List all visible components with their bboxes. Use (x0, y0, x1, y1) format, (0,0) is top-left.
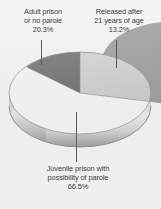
label-released-after-21-percent: 13.2% (82, 25, 156, 34)
label-released-after-21: Released after 21 years of age 13.2% (82, 7, 156, 35)
pie-slice-adult-prison[interactable] (26, 52, 80, 93)
label-released-after-21-line1: Released after (96, 7, 143, 16)
leader-line-released-after-21 (116, 40, 117, 68)
label-juvenile-prison-line1: Juvenile prison with (47, 164, 110, 173)
label-adult-prison-percent: 20.3% (7, 25, 79, 34)
label-juvenile-prison-line2: possibility of parole (48, 173, 109, 182)
label-juvenile-prison-percent: 66.5% (20, 182, 136, 191)
pie-3d-rim (9, 93, 151, 147)
label-adult-prison-line1: Adult prison (24, 7, 62, 16)
label-juvenile-prison: Juvenile prison with possibility of paro… (20, 164, 136, 192)
label-adult-prison-line2: or no parole (24, 16, 62, 25)
leader-line-juvenile-prison (76, 112, 77, 162)
pie-chart-figure: Adult prison or no parole 20.3% Released… (0, 0, 161, 209)
leader-line-adult-prison (41, 40, 42, 65)
label-adult-prison: Adult prison or no parole 20.3% (7, 7, 79, 35)
pie-rim-band (9, 93, 151, 147)
label-released-after-21-line2: 21 years of age (94, 16, 143, 25)
